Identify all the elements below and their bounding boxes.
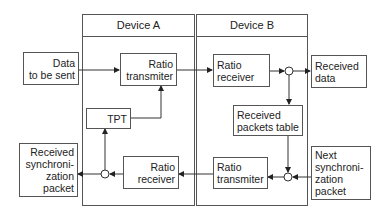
label-line: Ratio: [217, 59, 242, 71]
label-line: packets table: [237, 121, 299, 133]
label-line: Data: [53, 57, 75, 69]
label-line: Next: [315, 149, 337, 161]
label-line: Ratio: [217, 161, 242, 173]
received-data-box: Received data: [311, 55, 367, 88]
label-line: Ratio: [150, 161, 175, 173]
label-line: packet: [43, 182, 74, 194]
label-line: transmiter: [217, 173, 264, 185]
label-line: transmiter: [126, 70, 173, 82]
label-line: synchroni-: [315, 161, 363, 173]
device-a-tpt: TPT: [86, 108, 131, 129]
label-line: data: [315, 72, 335, 84]
label-line: zation: [315, 173, 343, 185]
label-line: zation: [46, 170, 74, 182]
next-sync-packet-box: Next synchroni- zation packet: [311, 146, 371, 200]
label-line: synchroni-: [26, 158, 74, 170]
device-b-ratio-receiver: Ratio receiver: [213, 54, 270, 87]
device-b-received-packets-table: Received packets table: [233, 105, 303, 136]
label-line: receiver: [138, 173, 175, 185]
device-b-ratio-transmitter: Ratio transmiter: [213, 157, 268, 189]
device-a-title: Device A: [83, 15, 194, 37]
label-line: Received: [237, 109, 281, 121]
data-to-be-sent-box: Data to be sent: [23, 52, 79, 85]
label-line: Ratio: [148, 58, 173, 70]
device-a-ratio-receiver: Ratio receiver: [123, 156, 179, 189]
label-line: receiver: [217, 71, 254, 83]
label-line: Received: [30, 146, 74, 158]
label-line: Received: [315, 60, 359, 72]
device-b-title: Device B: [197, 15, 307, 37]
label-line: packet: [315, 185, 346, 197]
device-a-ratio-transmitter: Ratio transmiter: [120, 53, 177, 86]
received-sync-packet-box: Received synchroni- zation packet: [19, 143, 78, 197]
label-line: TPT: [107, 113, 127, 125]
label-line: to be sent: [29, 69, 75, 81]
